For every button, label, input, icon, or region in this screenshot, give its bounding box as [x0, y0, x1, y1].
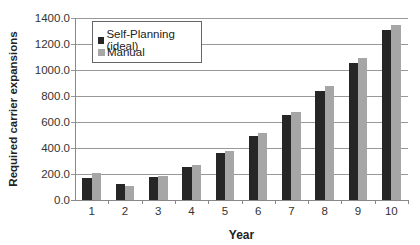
- x-tick-mark: [242, 200, 243, 204]
- bar-chart: Required carrier expansions Year 0.0200.…: [0, 0, 420, 245]
- x-tick-mark: [341, 200, 342, 204]
- y-tick-label: 1000.0: [35, 64, 70, 76]
- bar-manual: [225, 151, 234, 200]
- legend-label-manual: Manual: [107, 46, 145, 58]
- legend-swatch-self-planning: [98, 37, 104, 44]
- bar-self-planning: [282, 115, 291, 200]
- bar-self-planning: [315, 91, 324, 200]
- bar-self-planning: [149, 177, 158, 200]
- bar-manual: [291, 112, 300, 200]
- x-tick-mark: [142, 200, 143, 204]
- bar-self-planning: [216, 153, 225, 200]
- x-tick-mark: [108, 200, 109, 204]
- x-axis-label: Year: [75, 228, 408, 242]
- y-tick-label: 400.0: [41, 142, 70, 154]
- x-tick-label: 8: [322, 205, 328, 217]
- bar-manual: [391, 25, 400, 200]
- x-tick-label: 10: [385, 205, 398, 217]
- bar-self-planning: [349, 63, 358, 200]
- x-tick-label: 6: [255, 205, 261, 217]
- x-tick-mark: [275, 200, 276, 204]
- y-tick-label: 1200.0: [35, 38, 70, 50]
- y-tick-label: 800.0: [41, 90, 70, 102]
- bar-manual: [192, 165, 201, 200]
- bar-self-planning: [249, 136, 258, 200]
- gridline: [71, 200, 408, 201]
- bar-self-planning: [82, 178, 91, 200]
- x-tick-mark: [208, 200, 209, 204]
- bar-manual: [125, 186, 134, 200]
- gridline: [71, 18, 408, 19]
- x-tick-label: 4: [188, 205, 194, 217]
- x-tick-label: 7: [288, 205, 294, 217]
- y-axis-label: Required carrier expansions: [5, 18, 21, 200]
- bar-manual: [92, 173, 101, 200]
- y-axis-label-text: Required carrier expansions: [7, 31, 19, 186]
- bar-self-planning: [382, 30, 391, 200]
- x-tick-label: 5: [222, 205, 228, 217]
- x-tick-mark: [375, 200, 376, 204]
- x-tick-label: 3: [155, 205, 161, 217]
- x-tick-mark: [408, 200, 409, 204]
- y-tick-label: 600.0: [41, 116, 70, 128]
- x-tick-label: 1: [88, 205, 94, 217]
- bar-self-planning: [116, 184, 125, 200]
- x-tick-label: 2: [122, 205, 128, 217]
- y-tick-label: 1400.0: [35, 12, 70, 24]
- y-axis-line: [75, 18, 76, 201]
- y-tick-label: 0.0: [54, 194, 70, 206]
- bar-manual: [358, 58, 367, 200]
- y-tick-label: 200.0: [41, 168, 70, 180]
- bar-manual: [325, 86, 334, 200]
- legend: Self-Planning (ideal) Manual: [92, 21, 202, 63]
- x-tick-label: 9: [355, 205, 361, 217]
- bar-manual: [158, 176, 167, 200]
- x-tick-mark: [308, 200, 309, 204]
- legend-item-manual: Manual: [98, 46, 145, 58]
- x-tick-mark: [175, 200, 176, 204]
- legend-swatch-manual: [98, 49, 105, 56]
- bar-self-planning: [182, 167, 191, 200]
- bar-manual: [258, 133, 267, 200]
